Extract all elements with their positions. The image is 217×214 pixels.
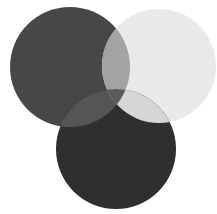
venn-svg — [0, 0, 217, 214]
venn-diagram — [0, 0, 217, 214]
